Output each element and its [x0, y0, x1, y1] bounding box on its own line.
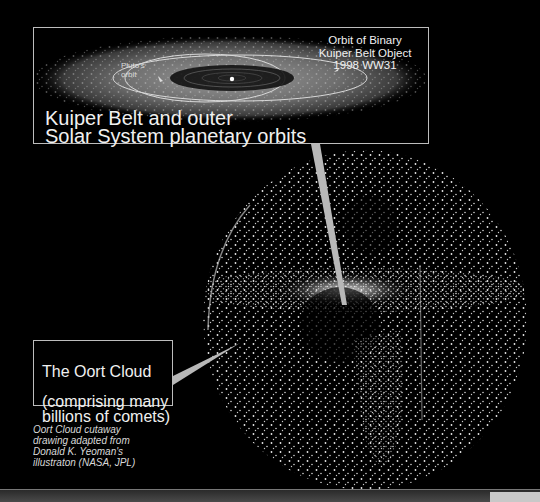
image-credit: Oort Cloud cutaway drawing adapted from … — [33, 424, 135, 468]
bottom-strip — [0, 489, 540, 502]
oort-cloud-sphere — [190, 150, 530, 490]
pluto-orbit-label: Pluto's orbit — [121, 62, 145, 79]
oort-cloud-subtitle: (comprising many billions of comets) — [42, 394, 170, 424]
binary-object-label: Orbit of Binary Kuiper Belt Object 1998 … — [300, 34, 430, 72]
oort-cloud-title: The Oort Cloud — [42, 364, 170, 379]
kuiper-belt-title: Kuiper Belt and outer Solar System plane… — [45, 109, 306, 145]
